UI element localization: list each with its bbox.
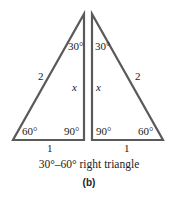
- right-triangle: 30° 2 x 90° 60° 1: [92, 14, 163, 154]
- left-bottom-right-angle-label: 90°: [64, 125, 79, 137]
- right-vertical-side-label: x: [95, 81, 101, 93]
- left-hypotenuse-label: 2: [38, 70, 44, 82]
- right-hypotenuse-label: 2: [135, 70, 141, 82]
- right-bottom-right-angle-label: 60°: [138, 125, 153, 137]
- left-bottom-left-angle-label: 60°: [22, 125, 37, 137]
- right-bottom-left-angle-label: 90°: [96, 125, 111, 137]
- left-triangle-outline: [13, 14, 84, 140]
- left-base-label: 1: [47, 142, 53, 154]
- triangle-diagram: 30° 2 x 60° 90° 1 30° 2 x 90° 60° 1 30°–…: [0, 0, 177, 199]
- right-triangle-outline: [92, 14, 163, 140]
- left-triangle: 30° 2 x 60° 90° 1: [13, 14, 84, 154]
- right-top-angle-label: 30°: [95, 40, 110, 52]
- left-vertical-side-label: x: [71, 81, 77, 93]
- left-top-angle-label: 30°: [68, 40, 83, 52]
- panel-label: (b): [83, 177, 96, 188]
- right-base-label: 1: [124, 142, 130, 154]
- figure-caption: 30°–60° right triangle: [39, 158, 140, 171]
